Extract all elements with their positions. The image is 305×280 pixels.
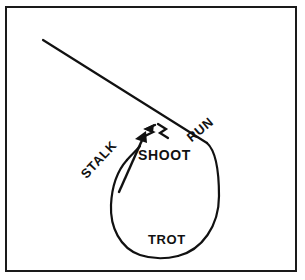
zigzag-mark-tail-icon xyxy=(158,124,168,138)
approach-line xyxy=(43,40,207,143)
label-shoot: SHOOT xyxy=(138,147,191,163)
label-trot: TROT xyxy=(148,232,186,247)
figure-page: STALK SHOOT RUN TROT xyxy=(0,0,305,280)
